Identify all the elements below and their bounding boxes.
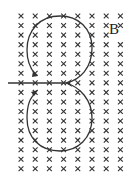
field-cross-icon — [104, 166, 109, 171]
field-cross-icon — [75, 42, 80, 47]
field-cross-icon — [47, 71, 52, 76]
field-cross-icon — [90, 23, 95, 28]
field-cross-icon — [61, 166, 66, 171]
field-cross-icon — [118, 100, 123, 105]
field-cross-icon — [33, 14, 38, 19]
field-cross-icon — [33, 33, 38, 38]
field-cross-icon — [19, 157, 24, 162]
field-cross-icon — [19, 61, 24, 66]
field-cross-icon — [104, 138, 109, 143]
field-cross-icon — [90, 166, 95, 171]
field-cross-icon — [75, 147, 80, 152]
field-cross-icon — [118, 80, 123, 85]
field-cross-icon — [19, 14, 24, 19]
field-cross-icon — [90, 138, 95, 143]
field-cross-icon — [75, 71, 80, 76]
field-cross-icon — [75, 33, 80, 38]
field-cross-icon — [19, 71, 24, 76]
field-cross-icon — [104, 157, 109, 162]
field-cross-icon — [33, 157, 38, 162]
field-cross-icon — [61, 71, 66, 76]
field-cross-icon — [104, 119, 109, 124]
field-cross-icon — [75, 100, 80, 105]
field-cross-icon — [19, 128, 24, 133]
field-cross-icon — [104, 128, 109, 133]
field-cross-icon — [47, 157, 52, 162]
field-cross-icon — [104, 109, 109, 114]
field-cross-icon — [118, 138, 123, 143]
field-cross-icon — [104, 61, 109, 66]
field-cross-icon — [33, 61, 38, 66]
field-cross-icon — [75, 109, 80, 114]
field-cross-icon — [19, 138, 24, 143]
field-cross-icon — [75, 128, 80, 133]
field-cross-icon — [19, 166, 24, 171]
field-cross-icon — [19, 33, 24, 38]
field-cross-icon — [33, 147, 38, 152]
upper-loop — [27, 16, 92, 83]
field-cross-icon — [75, 14, 80, 19]
field-cross-icon — [118, 166, 123, 171]
field-cross-icon — [75, 119, 80, 124]
field-cross-icon — [90, 90, 95, 95]
field-cross-icon — [61, 52, 66, 57]
field-cross-icon — [118, 157, 123, 162]
field-cross-icon — [19, 23, 24, 28]
field-cross-icon — [33, 128, 38, 133]
field-cross-icon — [47, 100, 52, 105]
field-cross-icon — [61, 119, 66, 124]
field-cross-icon — [47, 109, 52, 114]
arrow-lower-icon — [31, 90, 38, 96]
field-cross-icon — [61, 61, 66, 66]
field-cross-icon — [104, 80, 109, 85]
field-cross-icon — [75, 157, 80, 162]
field-cross-icon — [75, 52, 80, 57]
field-cross-icon — [47, 61, 52, 66]
field-cross-icon — [47, 52, 52, 57]
field-cross-icon — [61, 42, 66, 47]
field-cross-icon — [61, 138, 66, 143]
field-cross-icon — [47, 119, 52, 124]
field-cross-icon — [19, 147, 24, 152]
field-cross-icon — [47, 128, 52, 133]
field-cross-icon — [75, 23, 80, 28]
field-cross-icon — [118, 90, 123, 95]
field-cross-icon — [19, 100, 24, 105]
field-cross-icon — [61, 90, 66, 95]
field-cross-icon — [118, 61, 123, 66]
field-label-b: B — [109, 22, 119, 37]
field-cross-icon — [47, 138, 52, 143]
field-cross-icon — [47, 33, 52, 38]
field-cross-icon — [75, 138, 80, 143]
field-cross-icon — [33, 100, 38, 105]
field-cross-icon — [90, 157, 95, 162]
field-cross-icon — [104, 42, 109, 47]
arrow-junction-icon — [66, 79, 72, 87]
field-cross-icon — [104, 14, 109, 19]
field-cross-icon — [61, 33, 66, 38]
field-cross-icon — [47, 90, 52, 95]
field-cross-icon — [47, 166, 52, 171]
field-cross-icon — [47, 23, 52, 28]
field-cross-icon — [61, 109, 66, 114]
field-cross-icon — [118, 128, 123, 133]
field-cross-icon — [104, 23, 109, 28]
field-cross-icon — [19, 119, 24, 124]
field-cross-icon — [104, 33, 109, 38]
field-cross-icon — [104, 90, 109, 95]
field-cross-icon — [75, 61, 80, 66]
field-cross-icon — [61, 128, 66, 133]
field-cross-icon — [19, 42, 24, 47]
field-cross-icon — [118, 42, 123, 47]
field-cross-icon — [118, 71, 123, 76]
field-cross-icon — [104, 52, 109, 57]
field-cross-icon — [19, 52, 24, 57]
field-cross-icon — [118, 147, 123, 152]
field-cross-icon — [90, 14, 95, 19]
field-cross-icon — [104, 100, 109, 105]
field-cross-icon — [118, 119, 123, 124]
field-cross-icon — [61, 157, 66, 162]
field-cross-icon — [33, 166, 38, 171]
field-cross-icon — [47, 42, 52, 47]
field-cross-icon — [33, 119, 38, 124]
